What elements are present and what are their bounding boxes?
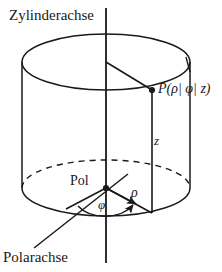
rho-radius-label: ρ — [131, 186, 138, 200]
polar-axis-label: Polarachse — [3, 250, 68, 265]
point-p-marker — [149, 87, 155, 93]
cylinder-axis-label: Zylinderachse — [9, 8, 94, 23]
phi-angle-label: φ — [98, 198, 105, 211]
point-p-label: P(ρ| φ| z) — [158, 82, 211, 96]
top-radius-line — [106, 62, 152, 90]
cylindrical-coordinates-figure: Zylinderachse Polarachse Pol P(ρ| φ| z) … — [0, 0, 222, 272]
z-height-label: z — [154, 134, 159, 147]
diagram-canvas — [0, 0, 222, 272]
pole-label: Pol — [70, 174, 89, 188]
